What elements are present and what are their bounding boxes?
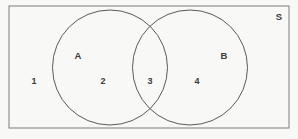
venn-diagram-canvas: S A B 1 2 3 4	[0, 0, 298, 139]
region-label-4: 4	[194, 76, 199, 86]
set-b-circle	[133, 10, 248, 125]
venn-diagram: S A B 1 2 3 4	[0, 0, 298, 139]
region-label-2: 2	[100, 76, 105, 86]
set-a-circle	[53, 10, 168, 125]
region-label-3: 3	[147, 76, 152, 86]
set-b-label: B	[221, 50, 228, 61]
universal-set-label: S	[276, 11, 282, 22]
set-a-label: A	[75, 50, 82, 61]
region-label-1: 1	[31, 76, 36, 86]
